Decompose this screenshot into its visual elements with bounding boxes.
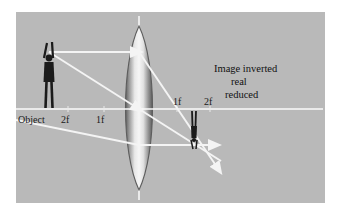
image-description-line-3: reduced (225, 89, 258, 102)
ray-diagram-canvas (16, 12, 325, 203)
label-object: Object (18, 115, 45, 125)
label-1f-left: 1f (96, 115, 104, 125)
label-2f-right: 2f (204, 97, 212, 107)
ray-chief-incident (49, 52, 139, 109)
label-1f-right: 1f (173, 97, 181, 107)
figure-root: Object 2f 1f 1f 2f Image inverted real r… (0, 0, 341, 215)
diagram-panel: Object 2f 1f 1f 2f Image inverted real r… (16, 12, 325, 203)
image-description-line-2: real (231, 76, 247, 89)
label-2f-left: 2f (61, 115, 69, 125)
image-description-line-1: Image inverted (214, 63, 277, 76)
